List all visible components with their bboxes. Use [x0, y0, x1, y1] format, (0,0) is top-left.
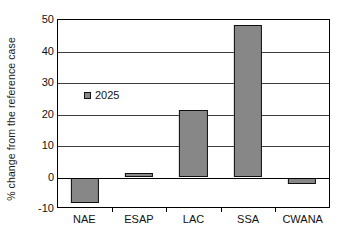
bar — [71, 178, 99, 203]
y-axis-tick-label: -10 — [16, 202, 54, 214]
bar-group-esap — [112, 20, 166, 207]
bar — [179, 110, 207, 177]
bar-chart: % change from the reference case 5040302… — [0, 0, 349, 238]
x-axis-tick-mark — [275, 207, 276, 212]
bar-group-nae — [58, 20, 112, 207]
x-axis-tick-mark — [166, 207, 167, 212]
x-axis-category-label: CWANA — [282, 213, 323, 225]
bar-group-ssa — [221, 20, 275, 207]
zero-line — [58, 178, 329, 179]
bar — [234, 25, 262, 177]
x-axis-category-label: SSA — [237, 213, 259, 225]
bar — [288, 178, 316, 185]
x-axis-category-label: ESAP — [124, 213, 153, 225]
bar-series-2025 — [58, 20, 329, 207]
x-axis-tick-mark — [112, 207, 113, 212]
plot-area — [57, 19, 330, 208]
x-axis-category-labels: NAEESAPLACSSACWANA — [57, 213, 330, 231]
y-axis-tick-label: 30 — [16, 76, 54, 88]
y-axis-tick-labels: 50403020100-10 — [14, 0, 54, 238]
y-axis-tick-label: 20 — [16, 108, 54, 120]
bar-group-lac — [166, 20, 220, 207]
legend: 2025 — [84, 89, 119, 101]
legend-swatch-icon — [84, 92, 91, 99]
bar-group-cwana — [275, 20, 329, 207]
x-axis-category-label: NAE — [73, 213, 96, 225]
legend-label: 2025 — [95, 89, 119, 101]
y-axis-tick-label: 0 — [16, 171, 54, 183]
x-axis-tick-mark — [221, 207, 222, 212]
y-axis-tick-label: 50 — [16, 13, 54, 25]
y-axis-tick-label: 40 — [16, 45, 54, 57]
y-axis-tick-label: 10 — [16, 139, 54, 151]
x-axis-category-label: LAC — [183, 213, 204, 225]
